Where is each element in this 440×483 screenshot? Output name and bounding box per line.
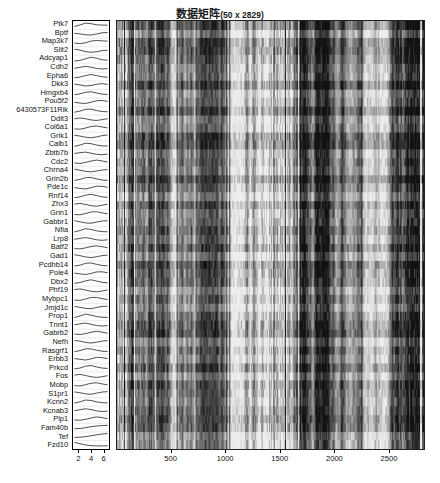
sparkline-trace bbox=[74, 340, 107, 343]
heatmap-x-tick-mark bbox=[389, 450, 390, 453]
sparkline-trace bbox=[74, 23, 107, 26]
heatmap-canvas bbox=[117, 21, 424, 449]
heatmap-x-tick-label: 1500 bbox=[271, 454, 288, 463]
sparkline-trace bbox=[74, 357, 107, 360]
sparkline-trace bbox=[74, 383, 107, 386]
sparkline-trace bbox=[74, 349, 107, 352]
sparkline-trace bbox=[74, 434, 107, 438]
sparkline-trace bbox=[74, 100, 107, 103]
heatmap-x-axis: 5001000150020002500 bbox=[116, 450, 425, 468]
sparkline-trace bbox=[74, 400, 107, 403]
sparkline-trace bbox=[74, 57, 107, 61]
sparkline-trace bbox=[74, 374, 107, 377]
sparkline-trace bbox=[74, 331, 107, 334]
sparkline-x-tick-mark bbox=[78, 450, 79, 453]
sparkline-trace bbox=[74, 135, 107, 138]
sparkline-trace bbox=[74, 392, 107, 395]
sparkline-trace bbox=[74, 246, 107, 249]
sparkline-trace bbox=[74, 109, 107, 112]
heatmap-x-tick-mark bbox=[171, 450, 172, 453]
sparkline-trace bbox=[74, 143, 107, 146]
sparkline-trace bbox=[74, 126, 107, 129]
sparkline-trace bbox=[74, 66, 107, 69]
sparkline-trace bbox=[74, 238, 107, 241]
sparkline-x-axis: 246 bbox=[72, 450, 110, 468]
sparkline-trace bbox=[74, 306, 107, 309]
row-label-axis: Ptk7BptfMap3k7Slit2Adcyap1Cdh2Epha6Dkk3H… bbox=[0, 20, 70, 450]
sparkline-x-tick-mark bbox=[104, 450, 105, 453]
title-dimensions: (50 x 2829) bbox=[220, 10, 263, 20]
data-matrix-heatmap bbox=[116, 20, 425, 450]
sparkline-trace bbox=[74, 255, 107, 258]
sparkline-trace bbox=[74, 212, 107, 215]
sparkline-trace bbox=[74, 118, 107, 121]
sparkline-trace bbox=[74, 425, 107, 428]
sparkline-x-tick-label: 6 bbox=[102, 454, 106, 463]
sparkline-trace bbox=[74, 297, 107, 300]
sparkline-trace bbox=[74, 152, 107, 155]
sparkline-svg bbox=[73, 21, 109, 449]
sparkline-trace bbox=[74, 49, 107, 52]
sparkline-trace bbox=[74, 33, 107, 36]
sparkline-trace bbox=[74, 41, 107, 44]
sparkline-trace bbox=[74, 263, 107, 266]
heatmap-x-tick-mark bbox=[334, 450, 335, 453]
row-label: Fzd10 bbox=[47, 441, 70, 450]
sparkline-x-tick-label: 2 bbox=[76, 454, 80, 463]
heatmap-x-tick-mark bbox=[225, 450, 226, 453]
sparkline-trace bbox=[74, 92, 107, 95]
sparkline-trace bbox=[74, 74, 107, 77]
sparkline-trace bbox=[74, 177, 107, 180]
heatmap-x-tick-label: 500 bbox=[164, 454, 177, 463]
sparkline-trace bbox=[74, 169, 107, 172]
sparkline-x-tick-mark bbox=[91, 450, 92, 453]
heatmap-x-tick-label: 2000 bbox=[326, 454, 343, 463]
heatmap-x-tick-label: 2500 bbox=[381, 454, 398, 463]
sparkline-trace bbox=[74, 417, 107, 420]
sparkline-x-tick-label: 4 bbox=[89, 454, 93, 463]
sparkline-trace bbox=[74, 323, 107, 326]
sparkline-trace bbox=[74, 442, 107, 445]
sparkline-trace bbox=[74, 229, 107, 232]
heatmap-x-tick-label: 1000 bbox=[217, 454, 234, 463]
sparkline-trace bbox=[74, 280, 107, 283]
sparkline-trace bbox=[74, 289, 107, 292]
sparkline-trace bbox=[74, 160, 107, 163]
sparkline-trace bbox=[74, 314, 107, 317]
sparkline-trace bbox=[74, 186, 107, 189]
row-profile-sparkline-panel bbox=[72, 20, 110, 450]
sparkline-trace bbox=[74, 221, 107, 224]
sparkline-trace bbox=[74, 272, 107, 275]
figure-canvas: 数据矩阵(50 x 2829) Ptk7BptfMap3k7Slit2Adcya… bbox=[0, 0, 440, 483]
heatmap-x-tick-mark bbox=[280, 450, 281, 453]
sparkline-trace bbox=[74, 366, 107, 369]
sparkline-trace bbox=[74, 194, 107, 197]
sparkline-trace bbox=[74, 84, 107, 86]
sparkline-trace bbox=[74, 203, 107, 206]
sparkline-trace bbox=[74, 409, 107, 412]
